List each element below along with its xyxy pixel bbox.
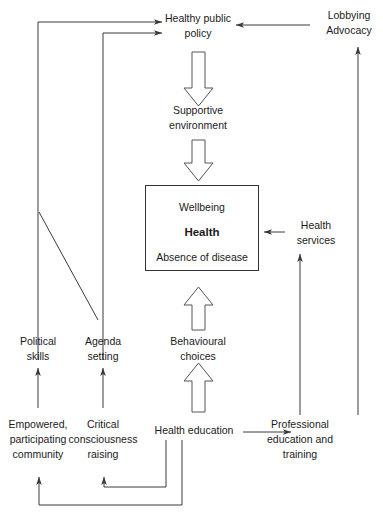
node-behavioural-choices-line1: Behavioural <box>170 335 225 347</box>
node-healthy-public-policy-line2: policy <box>185 27 213 39</box>
node-health-services-line2: services <box>297 234 336 246</box>
block-arrow-health-education-to-behavioural-choices <box>184 363 213 412</box>
node-lobbying-advocacy-line1: Lobbying <box>328 9 371 21</box>
block-arrow-supportive-environment-to-core-box <box>184 140 213 181</box>
node-critical-consciousness-line3: raising <box>88 448 119 460</box>
block-arrow-healthy-policy-to-supportive-environment <box>184 52 213 106</box>
node-empowered-community-line1: Empowered, <box>9 418 68 430</box>
block-arrow-behavioural-choices-to-core-box <box>184 287 213 330</box>
node-critical-consciousness-line2: consciousness <box>69 433 138 445</box>
edge-political-skills-diagonal <box>39 212 98 320</box>
node-political-skills-line2: skills <box>27 350 50 362</box>
node-agenda-setting-line1: Agenda <box>85 335 121 347</box>
node-professional-education-line3: training <box>283 448 318 460</box>
node-behavioural-choices-line2: choices <box>180 350 216 362</box>
node-agenda-setting-line2: setting <box>88 350 119 362</box>
node-supportive-environment-line2: environment <box>169 119 227 131</box>
node-empowered-community-line3: community <box>13 448 65 460</box>
node-health-education-line1: Health education <box>155 424 234 436</box>
node-core-health: Health <box>184 226 219 238</box>
node-health-services-line1: Health <box>301 219 332 231</box>
node-core-absence-of-disease: Absence of disease <box>156 251 248 263</box>
node-supportive-environment-line1: Supportive <box>173 104 223 116</box>
node-lobbying-advocacy-line2: Advocacy <box>326 24 372 36</box>
node-empowered-community-line2: participating <box>10 433 67 445</box>
node-critical-consciousness-line1: Critical <box>87 418 119 430</box>
node-professional-education-line2: education and <box>267 433 333 445</box>
health-promotion-diagram: Healthy public policy Lobbying Advocacy … <box>0 0 383 518</box>
node-professional-education-line1: Professional <box>271 418 329 430</box>
diagram-canvas: Healthy public policy Lobbying Advocacy … <box>0 0 383 518</box>
node-core-wellbeing: Wellbeing <box>179 201 225 213</box>
node-political-skills-line1: Political <box>20 335 56 347</box>
node-healthy-public-policy-line1: Healthy public <box>165 12 231 24</box>
edge-political-skills-to-healthy-public-policy <box>38 22 162 360</box>
